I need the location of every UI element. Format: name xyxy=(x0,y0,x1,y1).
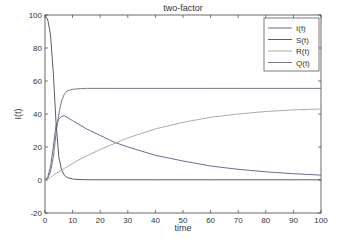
legend-entry: I(t) xyxy=(296,24,306,33)
x-tick-label: 70 xyxy=(234,216,243,225)
y-tick-label: 80 xyxy=(33,44,42,53)
y-tick-label: 20 xyxy=(33,143,42,152)
y-tick-label: -20 xyxy=(30,209,42,218)
y-tick-label: 40 xyxy=(33,110,42,119)
x-tick-label: 30 xyxy=(123,216,132,225)
x-axis-label: time xyxy=(174,223,191,233)
x-tick-label: 20 xyxy=(96,216,105,225)
y-tick-label: 60 xyxy=(33,77,42,86)
x-tick-label: 90 xyxy=(289,216,298,225)
chart-title: two-factor xyxy=(163,3,203,13)
x-tick-label: 40 xyxy=(151,216,160,225)
legend: I(t)S(t)R(t)Q(t) xyxy=(264,18,319,71)
legend-entry: R(t) xyxy=(296,47,310,56)
y-axis-label: I(t) xyxy=(13,109,23,120)
line-chart: two-factor 0102030405060708090100 -20020… xyxy=(0,0,348,244)
legend-entry: Q(t) xyxy=(296,59,310,68)
x-tick-label: 100 xyxy=(314,216,328,225)
x-tick-label: 0 xyxy=(43,216,48,225)
legend-entry: S(t) xyxy=(296,36,309,45)
y-tick-label: 0 xyxy=(38,176,43,185)
x-tick-label: 60 xyxy=(206,216,215,225)
x-tick-label: 10 xyxy=(68,216,77,225)
x-tick-label: 80 xyxy=(261,216,270,225)
y-tick-label: 100 xyxy=(29,11,43,20)
